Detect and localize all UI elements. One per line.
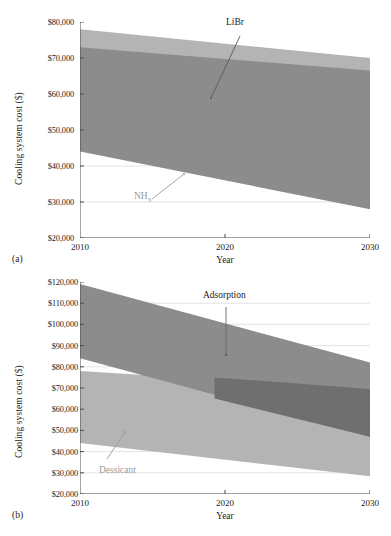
panel-a-y-tick-labels: $80,000 $70,000 $60,000 $50,000 $40,000 … bbox=[22, 0, 74, 268]
y-tick-label: $70,000 bbox=[48, 54, 74, 63]
panel-a-plot-area bbox=[80, 22, 370, 238]
panel-b-x-ticks bbox=[225, 490, 370, 494]
x-tick-label: 2010 bbox=[71, 242, 89, 252]
nh3-leader-line bbox=[152, 174, 184, 199]
annotation-nh3-subscript: 3 bbox=[148, 196, 152, 204]
y-tick-label: $120,000 bbox=[48, 278, 78, 287]
annotation-libr-text: LiBr bbox=[226, 17, 244, 27]
y-tick-label: $30,000 bbox=[48, 198, 74, 207]
panel-b-svg bbox=[80, 282, 370, 494]
annotation-dessicant: Dessicant bbox=[99, 465, 136, 475]
y-tick-label: $70,000 bbox=[52, 384, 78, 393]
annotation-adsorption-text: Adsorption bbox=[203, 290, 246, 300]
dessicant-leader-endpoint bbox=[124, 431, 126, 433]
panel-b-x-tick-labels: 2010 2020 2030 bbox=[0, 498, 391, 512]
x-tick-label: 2020 bbox=[216, 498, 234, 508]
y-tick-label: $50,000 bbox=[52, 426, 78, 435]
y-tick-label: $100,000 bbox=[48, 320, 78, 329]
x-tick-label: 2020 bbox=[216, 242, 234, 252]
y-tick-label: $40,000 bbox=[52, 447, 78, 456]
figure-panel-b: Cooling system cost ($) $120,000 $110,00… bbox=[0, 268, 391, 536]
figure-panel-a: Cooling system cost ($) $80,000 $70,000 … bbox=[0, 0, 391, 268]
y-tick-label: $80,000 bbox=[52, 362, 78, 371]
nh3-leader-endpoint bbox=[183, 173, 185, 175]
adsorption-leader-endpoint bbox=[225, 354, 227, 356]
annotation-dessicant-text: Dessicant bbox=[99, 465, 136, 475]
annotation-nh3: NH3 bbox=[134, 191, 151, 204]
y-tick-label: $30,000 bbox=[52, 468, 78, 477]
annotation-libr: LiBr bbox=[226, 17, 244, 27]
y-tick-label: $60,000 bbox=[48, 90, 74, 99]
panel-a-x-axis-label: Year bbox=[205, 255, 245, 265]
panel-b-x-axis-label: Year bbox=[205, 511, 245, 521]
band-libr bbox=[80, 47, 370, 209]
x-tick-label: 2010 bbox=[71, 498, 89, 508]
panel-a-x-ticks bbox=[225, 234, 370, 238]
panel-a-svg bbox=[80, 22, 370, 238]
y-tick-label: $40,000 bbox=[48, 162, 74, 171]
panel-b-y-tick-labels: $120,000 $110,000 $100,000 $90,000 $80,0… bbox=[22, 268, 78, 536]
panel-a-x-tick-labels: 2010 2020 2030 bbox=[0, 242, 391, 256]
y-tick-label: $90,000 bbox=[52, 341, 78, 350]
y-tick-label: $50,000 bbox=[48, 126, 74, 135]
panel-b-plot-area bbox=[80, 282, 370, 494]
x-tick-label: 2030 bbox=[361, 498, 379, 508]
y-tick-label: $60,000 bbox=[52, 405, 78, 414]
annotation-adsorption: Adsorption bbox=[203, 290, 246, 300]
panel-b-tag: (b) bbox=[12, 510, 23, 520]
panel-a-tag: (a) bbox=[12, 254, 23, 264]
annotation-nh3-text: NH bbox=[134, 191, 148, 201]
libr-leader-endpoint bbox=[210, 97, 212, 99]
y-tick-label: $110,000 bbox=[48, 299, 78, 308]
y-tick-label: $80,000 bbox=[48, 18, 74, 27]
x-tick-label: 2030 bbox=[361, 242, 379, 252]
